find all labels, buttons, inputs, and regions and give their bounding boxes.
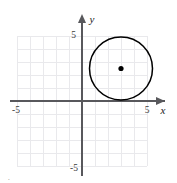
y-axis-negative-tick-label: -5: [70, 163, 78, 173]
x-axis-negative-tick-label: -5: [12, 105, 20, 115]
center-point-marker: [118, 66, 123, 71]
y-axis-positive-tick-label: 5: [71, 30, 76, 40]
axes: [10, 14, 165, 176]
y-axis-arrowhead: [78, 14, 86, 23]
corner-mark: .: [8, 174, 10, 182]
y-axis-label: y: [89, 13, 95, 25]
coordinate-plane-figure: -5 5 5 -5 x y .: [0, 0, 177, 183]
x-axis-positive-tick-label: 5: [145, 105, 150, 115]
graph-svg: -5 5 5 -5 x y .: [0, 0, 177, 183]
x-axis-label: x: [160, 104, 166, 116]
